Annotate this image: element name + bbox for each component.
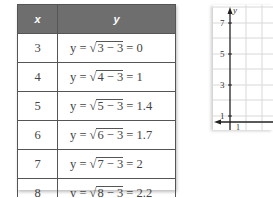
table-header-row: x y xyxy=(18,5,176,34)
x-tick-label: 1 xyxy=(236,123,240,132)
table-row: 7 y = √7 − 3 = 2 xyxy=(18,150,176,179)
table-row: 6 y = √6 − 3 = 1.7 xyxy=(18,121,176,150)
cell-y: y = √7 − 3 = 2 xyxy=(58,150,176,179)
table-row: 4 y = √4 − 3 = 1 xyxy=(18,63,176,92)
table-row: 8 y = √8 − 3 = 2.2 xyxy=(18,179,176,198)
table-row: 3 y = √3 − 3 = 0 xyxy=(18,34,176,63)
cell-y: y = √6 − 3 = 1.7 xyxy=(58,121,176,150)
cell-x: 8 xyxy=(18,179,58,198)
y-tick-label: 7 xyxy=(220,18,225,28)
header-y: y xyxy=(58,5,176,34)
cell-y: y = √3 − 3 = 0 xyxy=(58,34,176,63)
y-axis-label: y xyxy=(233,5,237,15)
cell-y: y = √4 − 3 = 1 xyxy=(58,63,176,92)
table-row: 5 y = √5 − 3 = 1.4 xyxy=(18,92,176,121)
values-table: x y 3 y = √3 − 3 = 0 4 y = √4 − 3 = 1 5 … xyxy=(17,4,176,190)
y-tick-label: 3 xyxy=(220,80,225,90)
coordinate-grid: y 7 5 3 1 1 xyxy=(213,5,273,130)
y-axis-arrow-icon xyxy=(228,7,233,14)
header-x: x xyxy=(18,5,58,34)
cell-y: y = √8 − 3 = 2.2 xyxy=(58,179,176,198)
cell-x: 4 xyxy=(18,63,58,92)
cell-x: 3 xyxy=(18,34,58,63)
cell-y: y = √5 − 3 = 1.4 xyxy=(58,92,176,121)
cell-x: 5 xyxy=(18,92,58,121)
cell-x: 7 xyxy=(18,150,58,179)
y-tick-label: 1 xyxy=(220,111,225,121)
cell-x: 6 xyxy=(18,121,58,150)
y-tick-label: 5 xyxy=(220,49,225,59)
